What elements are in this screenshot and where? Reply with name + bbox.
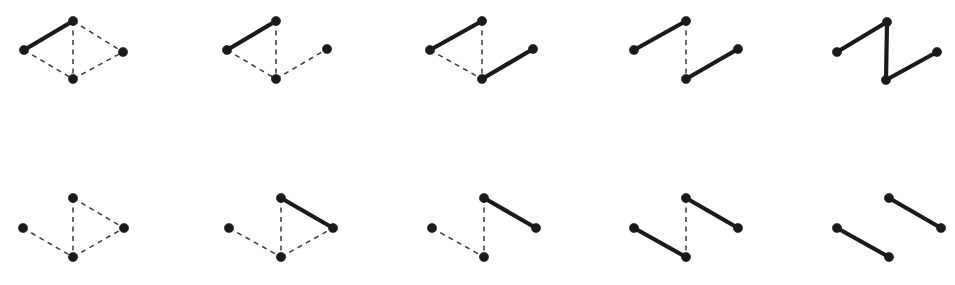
edge-top-right-solid bbox=[889, 198, 941, 228]
edge-top-right-solid bbox=[484, 198, 536, 228]
graph-canvas bbox=[406, 0, 596, 105]
graph-node-top bbox=[479, 193, 488, 202]
graph-node-right bbox=[118, 47, 127, 56]
graph-canvas bbox=[203, 0, 393, 105]
graph-node-bottom bbox=[681, 74, 690, 83]
edge-left-bottom-dashed bbox=[227, 50, 276, 79]
graph-node-right bbox=[531, 223, 540, 232]
graph-figure-1-1 bbox=[0, 0, 190, 105]
graph-canvas bbox=[803, 0, 955, 105]
graph-node-right bbox=[936, 223, 945, 232]
graph-node-bottom bbox=[271, 74, 280, 83]
edge-top-right-dashed bbox=[73, 198, 124, 228]
graph-node-top bbox=[271, 16, 280, 25]
edge-left-top-solid bbox=[837, 22, 887, 52]
edge-left-bottom-dashed bbox=[432, 228, 484, 257]
edge-left-top-solid bbox=[24, 21, 73, 50]
graph-node-top bbox=[681, 193, 690, 202]
graph-node-left bbox=[18, 223, 27, 232]
edge-left-top-solid bbox=[227, 21, 276, 50]
graph-node-bottom bbox=[681, 252, 690, 261]
graph-node-left bbox=[425, 45, 434, 54]
graph-figure-1-2 bbox=[203, 0, 393, 105]
edge-left-top-solid bbox=[430, 21, 482, 50]
graph-canvas bbox=[0, 178, 190, 283]
edge-bottom-right-dashed bbox=[276, 49, 327, 79]
graph-node-right bbox=[328, 223, 337, 232]
graph-node-bottom bbox=[276, 252, 285, 261]
graph-node-left bbox=[832, 223, 841, 232]
graph-node-top bbox=[681, 16, 690, 25]
edge-left-bottom-dashed bbox=[24, 50, 73, 79]
edge-left-bottom-dashed bbox=[23, 228, 73, 257]
graph-node-top bbox=[884, 193, 893, 202]
graph-node-bottom bbox=[68, 252, 77, 261]
graph-node-top bbox=[68, 193, 77, 202]
edge-bottom-right-dashed bbox=[73, 228, 124, 257]
graph-node-right bbox=[119, 223, 128, 232]
graph-node-left bbox=[629, 45, 638, 54]
graph-node-right bbox=[528, 44, 537, 53]
graph-node-left bbox=[224, 223, 233, 232]
graph-node-left bbox=[19, 45, 28, 54]
graph-node-bottom bbox=[477, 74, 486, 83]
graph-node-left bbox=[629, 223, 638, 232]
edge-left-bottom-dashed bbox=[430, 50, 482, 79]
graph-node-top bbox=[68, 16, 77, 25]
graph-node-bottom bbox=[68, 74, 77, 83]
graph-figure-2-2 bbox=[203, 178, 393, 283]
graph-figure-2-5 bbox=[803, 178, 955, 283]
graph-canvas bbox=[203, 178, 393, 283]
graph-canvas bbox=[604, 178, 794, 283]
figure-grid bbox=[0, 0, 955, 285]
graph-node-left bbox=[832, 47, 841, 56]
graph-node-bottom bbox=[881, 75, 890, 84]
graph-node-right bbox=[733, 223, 742, 232]
edge-top-right-dashed bbox=[73, 21, 123, 52]
graph-node-right bbox=[733, 44, 742, 53]
graph-node-top bbox=[882, 17, 891, 26]
graph-node-left bbox=[222, 45, 231, 54]
edge-bottom-right-solid bbox=[886, 52, 937, 80]
graph-figure-1-3 bbox=[406, 0, 596, 105]
graph-node-top bbox=[276, 193, 285, 202]
edge-top-bottom-solid bbox=[886, 22, 887, 80]
graph-canvas bbox=[604, 0, 794, 105]
edge-bottom-right-dashed bbox=[281, 228, 333, 257]
edge-left-bottom-solid bbox=[837, 228, 889, 257]
edge-top-right-solid bbox=[686, 198, 738, 228]
edge-bottom-right-dashed bbox=[73, 52, 123, 79]
edge-left-bottom-solid bbox=[634, 228, 686, 257]
edge-left-top-solid bbox=[634, 21, 686, 50]
edge-top-right-solid bbox=[281, 198, 333, 228]
edge-bottom-right-solid bbox=[482, 49, 533, 79]
graph-figure-2-3 bbox=[406, 178, 596, 283]
edge-bottom-right-solid bbox=[686, 49, 738, 79]
graph-node-right bbox=[932, 47, 941, 56]
graph-canvas bbox=[0, 0, 190, 105]
graph-figure-1-4 bbox=[604, 0, 794, 105]
graph-node-bottom bbox=[884, 252, 893, 261]
graph-canvas bbox=[803, 178, 955, 283]
graph-figure-1-5 bbox=[803, 0, 955, 105]
graph-node-bottom bbox=[479, 252, 488, 261]
graph-canvas bbox=[406, 178, 596, 283]
graph-node-left bbox=[427, 223, 436, 232]
graph-node-top bbox=[477, 16, 486, 25]
edge-left-bottom-dashed bbox=[229, 228, 281, 257]
graph-figure-2-4 bbox=[604, 178, 794, 283]
graph-node-right bbox=[322, 44, 331, 53]
graph-figure-2-1 bbox=[0, 178, 190, 283]
